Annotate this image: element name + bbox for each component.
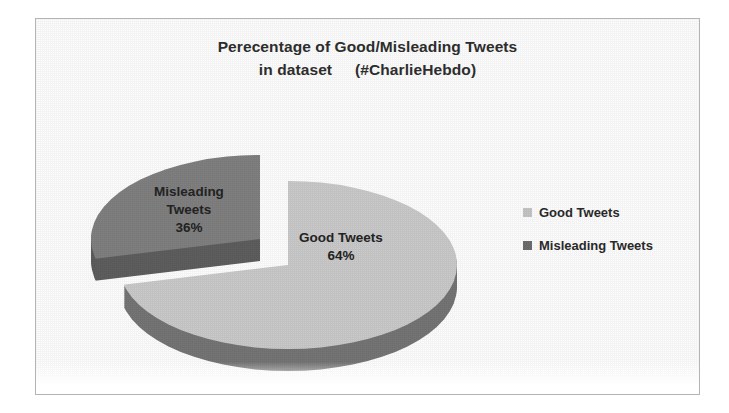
pie-label-misleading-tweets: Misleading Tweets 36% [129, 183, 249, 237]
pie-label-good-name: Good Tweets [271, 229, 411, 247]
legend-label-good-tweets: Good Tweets [539, 205, 620, 220]
legend-item-good-tweets[interactable]: Good Tweets [523, 205, 693, 220]
pie-label-misleading-name-1: Misleading [129, 183, 249, 201]
chart-title-line-1: Perecentage of Good/Misleading Tweets [218, 38, 518, 55]
pie-label-misleading-name-2: Tweets [129, 201, 249, 219]
legend-swatch-icon-misleading-tweets [523, 241, 532, 250]
chart-legend: Good Tweets Misleading Tweets [523, 205, 693, 271]
legend-swatch-icon-good-tweets [523, 208, 532, 217]
pie-label-good-tweets: Good Tweets 64% [271, 229, 411, 265]
pie-chart-plot-area: Misleading Tweets 36% Good Tweets 64% [91, 131, 471, 366]
chart-title-line-2-dataset: in dataset [259, 61, 332, 78]
legend-label-misleading-tweets: Misleading Tweets [539, 238, 653, 253]
chart-title: Perecentage of Good/Misleading Tweets in… [36, 35, 699, 81]
chart-title-line-2-hashtag: (#CharlieHebdo) [355, 61, 476, 78]
legend-item-misleading-tweets[interactable]: Misleading Tweets [523, 238, 693, 253]
pie-label-misleading-percent: 36% [129, 219, 249, 237]
frame-bottom-fade [36, 362, 699, 395]
chart-title-line-2: in dataset (#CharlieHebdo) [36, 58, 699, 81]
chart-container: Perecentage of Good/Misleading Tweets in… [35, 18, 700, 395]
pie-label-good-percent: 64% [271, 247, 411, 265]
